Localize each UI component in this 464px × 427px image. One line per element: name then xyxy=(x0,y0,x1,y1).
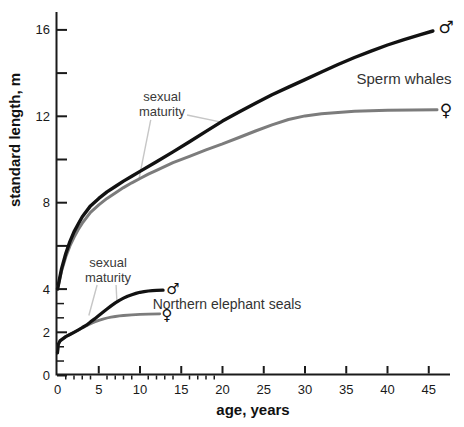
sexual-maturity-label-whales: sexual maturity xyxy=(139,89,185,120)
y-axis-title: standard length, m xyxy=(6,73,24,207)
female-symbol-seals: ♀ xyxy=(162,307,173,325)
y-tick-label: 4 xyxy=(12,282,50,297)
x-tick-label: 35 xyxy=(333,382,359,397)
female-symbol-whales: ♀ xyxy=(440,100,452,120)
male-symbol-seals: ♂ xyxy=(166,281,179,299)
curve-elephant-seal-male xyxy=(58,290,164,353)
x-tick-label: 5 xyxy=(86,382,112,397)
x-tick-label: 40 xyxy=(375,382,401,397)
x-axis-title: age, years xyxy=(216,401,289,419)
leader-line-seal-female-maturity xyxy=(89,285,97,315)
y-tick-label: 0 xyxy=(12,368,50,383)
x-tick-label: 15 xyxy=(168,382,194,397)
y-tick-label: 2 xyxy=(12,325,50,340)
x-tick-label: 45 xyxy=(416,382,442,397)
leader-line-whale-male-maturity xyxy=(187,115,220,122)
x-tick-label: 20 xyxy=(210,382,236,397)
x-axis-ticks xyxy=(66,366,429,380)
y-tick-label: 16 xyxy=(12,22,50,37)
leader-line-seal-male-maturity xyxy=(116,285,117,302)
y-axis-ticks xyxy=(57,30,67,376)
x-tick-label: 10 xyxy=(127,382,153,397)
growth-curves-chart: 16128420051015202530354045 standard leng… xyxy=(0,0,464,427)
plot-canvas xyxy=(0,0,464,427)
x-tick-label: 25 xyxy=(251,382,277,397)
sperm-whales-label: Sperm whales xyxy=(356,70,451,88)
x-tick-label: 0 xyxy=(45,382,71,397)
x-tick-label: 30 xyxy=(292,382,318,397)
sexual-maturity-label-seals: sexual maturity xyxy=(85,255,131,286)
male-symbol-whales: ♂ xyxy=(438,17,453,37)
